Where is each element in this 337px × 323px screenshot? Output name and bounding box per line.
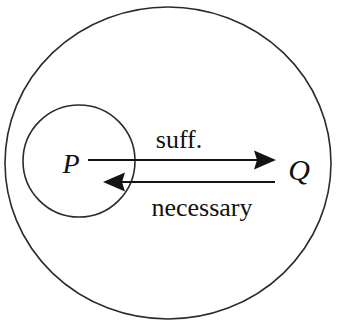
diagram-canvas: P Q suff. necessary [0,0,337,323]
sufficient-arrow-head-right-icon [254,151,276,170]
necessary-arrow [103,173,275,192]
outer-set-ellipse-q [5,7,331,319]
set-label-q: Q [288,153,310,186]
arrow-label-sufficient: suff. [156,125,202,154]
necessary-arrow-head-left-icon [103,173,125,192]
arrow-label-necessary: necessary [151,193,252,222]
euler-diagram-svg: P Q suff. necessary [0,0,337,323]
set-label-p: P [61,148,79,179]
